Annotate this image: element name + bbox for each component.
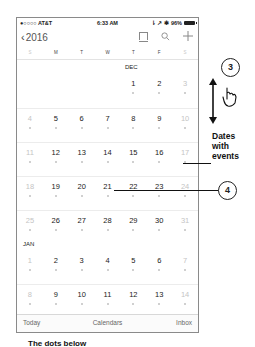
- event-dot: [184, 303, 186, 305]
- day-cell[interactable]: 13: [146, 285, 172, 313]
- week-row: 4 5 6 7 8 9 10: [17, 108, 198, 137]
- event-dot: [55, 161, 57, 163]
- add-icon[interactable]: [183, 31, 193, 41]
- step-4-callout: 4: [218, 181, 237, 200]
- day-cell[interactable]: 10: [172, 109, 198, 137]
- day-cell[interactable]: 3: [69, 251, 95, 279]
- day-cell[interactable]: 10: [69, 285, 95, 313]
- day-cell[interactable]: 7: [95, 109, 121, 137]
- day-cell[interactable]: 9: [43, 285, 69, 313]
- day-cell[interactable]: 3: [172, 74, 198, 102]
- day-number: 2: [146, 79, 172, 89]
- day-cell[interactable]: 8: [17, 285, 43, 313]
- day-number: 14: [172, 290, 198, 300]
- day-cell[interactable]: 11: [17, 143, 43, 171]
- day-cell[interactable]: 12: [43, 143, 69, 171]
- day-cell[interactable]: 18: [17, 177, 43, 205]
- day-cell[interactable]: 27: [69, 211, 95, 239]
- day-cell[interactable]: 31: [172, 211, 198, 239]
- day-cell[interactable]: 29: [120, 211, 146, 239]
- day-cell[interactable]: 1: [120, 74, 146, 102]
- day-cell[interactable]: 2: [43, 251, 69, 279]
- event-dot: [107, 127, 109, 129]
- day-number: 14: [95, 148, 121, 158]
- swipe-vertical-hand-icon: [220, 86, 240, 108]
- event-dot: [132, 269, 134, 271]
- day-cell: [17, 74, 43, 102]
- event-dot: [81, 229, 83, 231]
- day-number: 18: [17, 182, 43, 192]
- day-cell[interactable]: 26: [43, 211, 69, 239]
- day-cell[interactable]: 13: [69, 143, 95, 171]
- day-number: 7: [172, 256, 198, 266]
- search-icon[interactable]: [161, 32, 170, 41]
- day-cell[interactable]: 6: [69, 109, 95, 137]
- day-cell[interactable]: 14: [95, 143, 121, 171]
- status-right: ⇂ ↗ ✱ 96%: [151, 20, 195, 26]
- day-cell[interactable]: 7: [172, 251, 198, 279]
- event-dot: [55, 269, 57, 271]
- event-dot: [132, 92, 134, 94]
- day-cell[interactable]: 20: [69, 177, 95, 205]
- week-row: 25 26 27 28 29 30 31: [17, 210, 198, 239]
- day-cell: [95, 74, 121, 102]
- day-cell[interactable]: 15: [120, 143, 146, 171]
- day-number: 13: [146, 290, 172, 300]
- event-dot: [132, 161, 134, 163]
- event-dot: [29, 161, 31, 163]
- event-dot: [81, 269, 83, 271]
- day-cell[interactable]: 1: [17, 251, 43, 279]
- event-dot: [158, 229, 160, 231]
- day-cell[interactable]: 28: [95, 211, 121, 239]
- day-number: 31: [172, 216, 198, 226]
- day-number: 8: [120, 114, 146, 124]
- day-number: 10: [172, 114, 198, 124]
- event-dot: [158, 269, 160, 271]
- event-dot: [81, 161, 83, 163]
- list-view-icon[interactable]: [139, 32, 148, 40]
- event-dot: [29, 127, 31, 129]
- day-cell[interactable]: 30: [146, 211, 172, 239]
- day-cell[interactable]: 17: [172, 143, 198, 171]
- step-3-callout: 3: [221, 58, 240, 77]
- day-cell[interactable]: 5: [120, 251, 146, 279]
- week-row: 11 12 13 14 15 16 17: [17, 142, 198, 171]
- day-cell[interactable]: 16: [146, 143, 172, 171]
- day-cell[interactable]: 12: [120, 285, 146, 313]
- day-number: 3: [172, 79, 198, 89]
- day-number: 20: [69, 182, 95, 192]
- day-cell[interactable]: 19: [43, 177, 69, 205]
- day-cell[interactable]: 5: [43, 109, 69, 137]
- day-number: 8: [17, 290, 43, 300]
- event-dot: [158, 303, 160, 305]
- event-dot: [158, 92, 160, 94]
- inbox-button[interactable]: Inbox: [176, 319, 192, 326]
- vertical-scroll-arrow-icon: [206, 78, 220, 124]
- chevron-left-icon: ‹: [21, 31, 25, 43]
- day-cell[interactable]: 11: [95, 285, 121, 313]
- day-cell[interactable]: 14: [172, 285, 198, 313]
- day-number: 9: [43, 290, 69, 300]
- day-number: 1: [120, 79, 146, 89]
- event-dot: [81, 195, 83, 197]
- event-dot: [81, 303, 83, 305]
- day-cell[interactable]: 8: [120, 109, 146, 137]
- calendars-button[interactable]: Calendars: [17, 319, 198, 326]
- day-number: 16: [146, 148, 172, 158]
- back-to-year-button[interactable]: ‹ 2016: [21, 31, 48, 43]
- event-dot: [29, 195, 31, 197]
- day-cell[interactable]: 9: [146, 109, 172, 137]
- day-cell[interactable]: 4: [95, 251, 121, 279]
- phone-screen: ●○○○○ AT&T 6:33 AM ⇂ ↗ ✱ 96% ‹ 2016 S M …: [16, 17, 199, 333]
- day-cell[interactable]: 6: [146, 251, 172, 279]
- day-cell[interactable]: 2: [146, 74, 172, 102]
- day-cell[interactable]: 4: [17, 109, 43, 137]
- day-cell[interactable]: 25: [17, 211, 43, 239]
- day-number: 9: [146, 114, 172, 124]
- event-dot: [132, 229, 134, 231]
- month-label-dec: DEC: [125, 64, 138, 70]
- weekday-label: W: [95, 47, 121, 59]
- day-number: 13: [69, 148, 95, 158]
- event-dot: [55, 303, 57, 305]
- events-pointer-line: [183, 163, 211, 164]
